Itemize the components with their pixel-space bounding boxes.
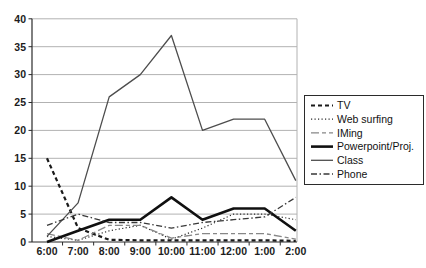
- x-axis-label: 9:00: [130, 245, 151, 257]
- x-axis-label: 8:00: [99, 245, 120, 257]
- legend-label-powerpoint-proj: Powerpoint/Proj.: [337, 140, 414, 152]
- x-axis-label: 6:00: [36, 245, 57, 257]
- y-axis-label: 25: [14, 96, 26, 108]
- legend-label-class: Class: [337, 154, 363, 166]
- line-chart: 05101520253035406:007:008:009:0010:0011:…: [0, 0, 426, 268]
- y-axis-label: 15: [14, 152, 26, 164]
- legend-label-tv: TV: [337, 99, 350, 111]
- y-axis-label: 0: [20, 236, 26, 248]
- y-axis-label: 20: [14, 124, 26, 136]
- y-axis-label: 30: [14, 68, 26, 80]
- y-axis-label: 10: [14, 180, 26, 192]
- x-axis-label: 11:00: [189, 245, 215, 257]
- chart-figure: 05101520253035406:007:008:009:0010:0011:…: [0, 0, 426, 268]
- y-axis-label: 40: [14, 13, 26, 25]
- x-axis-label: 2:00: [285, 245, 306, 257]
- x-axis-label: 12:00: [220, 245, 247, 257]
- y-axis-label: 5: [20, 208, 26, 220]
- y-axis-label: 35: [14, 41, 26, 53]
- legend-label-web-surfing: Web surfing: [337, 113, 393, 125]
- legend-label-iming: IMing: [337, 127, 363, 139]
- legend-label-phone: Phone: [337, 168, 368, 180]
- x-axis-label: 1:00: [254, 245, 275, 257]
- x-axis-label: 7:00: [68, 245, 89, 257]
- x-axis-label: 10:00: [158, 245, 185, 257]
